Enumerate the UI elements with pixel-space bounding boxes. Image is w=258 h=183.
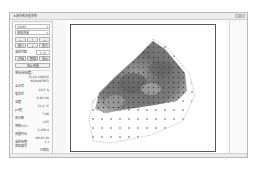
- mode-select-value: 网格测量: [16, 31, 29, 35]
- reading-label: pH值: [15, 108, 22, 112]
- reading-value: 21.4 °C: [38, 104, 49, 108]
- reading-label: 测点数: [15, 116, 24, 120]
- zoom-out-button[interactable]: 缩小: [15, 43, 26, 48]
- grid-spacing-label: 采样间距: [15, 50, 27, 54]
- pan-down-button[interactable]: ↓: [27, 43, 38, 48]
- start-button[interactable]: 开始: [15, 56, 26, 61]
- toggle-row: 开始 暂停 停止: [15, 56, 50, 61]
- reading-label: 测区编号: [15, 144, 27, 148]
- status-bar: [10, 153, 247, 157]
- nav-row-2: 缩小 ↓ 放大: [15, 43, 50, 48]
- contour-map: [71, 25, 215, 151]
- reading-value: 255: [43, 120, 49, 124]
- app-window: 土壤参数测量系统 关闭 COM3 网格测量 ← ↑ → 缩小 ↓ 放大 采样间距…: [9, 12, 248, 158]
- pause-button[interactable]: 暂停: [27, 56, 38, 61]
- nav-row-1: ← ↑ →: [15, 37, 50, 42]
- stop-button[interactable]: 停止: [39, 56, 50, 61]
- map-frame[interactable]: [70, 24, 216, 152]
- reading-label: 含水率: [15, 84, 24, 88]
- reading-value: 0.92 mS: [37, 96, 49, 100]
- pan-left-button[interactable]: ←: [15, 37, 26, 42]
- reading-label: 测量时长: [15, 132, 27, 136]
- grid-spacing-row: 采样间距 5 m: [15, 50, 50, 55]
- status-text: 已保存: [40, 148, 49, 152]
- reading-label: 温度: [15, 100, 21, 104]
- zoom-in-button[interactable]: 放大: [39, 43, 50, 48]
- control-panel: COM3 网格测量 ← ↑ → 缩小 ↓ 放大 采样间距 5 m 开始 暂停 停…: [12, 21, 53, 156]
- pan-up-button[interactable]: ↑: [27, 37, 38, 42]
- mode-select[interactable]: 网格测量: [15, 30, 50, 35]
- reading-value: 1 s: [45, 140, 49, 144]
- reading-value: 7.06: [42, 112, 49, 116]
- reading-value: 2,456.4: [38, 128, 49, 132]
- latitude-value: N39.987651: [31, 79, 49, 83]
- plot-area: [66, 21, 226, 156]
- pan-right-button[interactable]: →: [39, 37, 50, 42]
- side-strip: [229, 21, 247, 156]
- window-title: 土壤参数测量系统: [13, 13, 37, 19]
- stop-measure-button[interactable]: 停止测量: [15, 63, 50, 68]
- port-select-value: COM3: [16, 25, 26, 29]
- grid-spacing-input[interactable]: 5 m: [36, 50, 50, 55]
- reading-label: 电导率: [15, 92, 24, 96]
- port-select[interactable]: COM3: [15, 24, 50, 29]
- reading-value: 18.5 %: [39, 88, 49, 92]
- reading-label: 面积(m²): [15, 124, 27, 128]
- title-bar: 土壤参数测量系统 关闭: [10, 13, 247, 20]
- close-button[interactable]: 关闭: [235, 14, 245, 18]
